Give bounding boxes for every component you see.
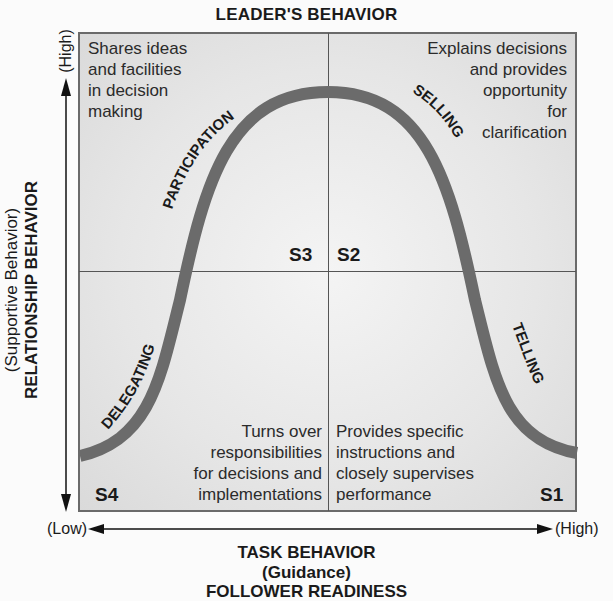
text-line: making xyxy=(88,101,187,122)
text-line: implementations xyxy=(193,484,322,505)
quadrant-text-bottom-right: Provides specific instructions and close… xyxy=(336,421,474,505)
text-line: clarification xyxy=(427,122,567,143)
text-line: and facilities xyxy=(88,59,187,80)
y-axis-high: (High) xyxy=(57,29,75,73)
style-label-s1: S1 xyxy=(540,484,563,506)
text-line: responsibilities xyxy=(193,442,322,463)
arrow-up-icon xyxy=(61,78,71,96)
x-axis-footer: FOLLOWER READINESS xyxy=(0,582,613,601)
style-label-s3: S3 xyxy=(289,244,312,266)
style-label-s4: S4 xyxy=(95,484,118,506)
text-line: Turns over xyxy=(193,421,322,442)
x-axis-low: (Low) xyxy=(47,520,87,538)
text-line: in decision xyxy=(88,80,187,101)
y-axis-title: RELATIONSHIP BEHAVIOR xyxy=(22,140,42,440)
quadrant-text-bottom-left: Turns over responsibilities for decision… xyxy=(193,421,322,505)
text-line: for xyxy=(427,101,567,122)
arrow-down-icon xyxy=(61,494,71,512)
text-line: closely supervises xyxy=(336,463,474,484)
text-line: instructions and xyxy=(336,442,474,463)
x-axis-high: (High) xyxy=(555,520,599,538)
style-label-s2: S2 xyxy=(337,244,360,266)
text-line: performance xyxy=(336,484,474,505)
leadership-curve xyxy=(80,92,577,456)
y-axis-subtitle: (Supportive Behavior) xyxy=(2,140,22,440)
text-line: Provides specific xyxy=(336,421,474,442)
quadrant-text-top-left: Shares ideas and facilities in decision … xyxy=(88,38,187,122)
curve-label-telling: TELLING xyxy=(509,320,548,386)
text-line: for decisions and xyxy=(193,463,322,484)
y-axis-label: (Supportive Behavior) RELATIONSHIP BEHAV… xyxy=(2,140,42,440)
x-axis-subtitle: (Guidance) xyxy=(0,563,613,583)
text-line: Explains decisions xyxy=(427,38,567,59)
x-axis-title: TASK BEHAVIOR xyxy=(0,543,613,563)
quadrant-text-top-right: Explains decisions and provides opportun… xyxy=(427,38,567,143)
svg-text:TELLING: TELLING xyxy=(509,320,548,386)
arrow-right-icon xyxy=(537,524,553,534)
curve-label-delegating: DELEGATING xyxy=(97,341,157,431)
arrow-left-icon xyxy=(88,524,104,534)
text-line: and provides xyxy=(427,59,567,80)
text-line: opportunity xyxy=(427,80,567,101)
text-line: Shares ideas xyxy=(88,38,187,59)
svg-text:DELEGATING: DELEGATING xyxy=(97,341,157,431)
